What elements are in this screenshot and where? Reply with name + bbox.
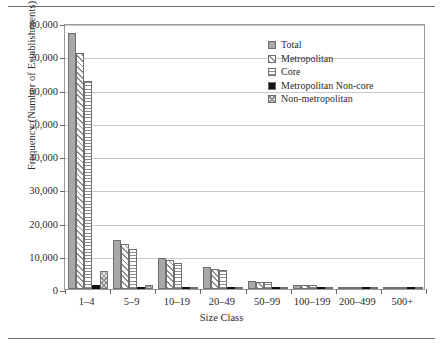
bar: [272, 287, 280, 289]
y-tick-label: 60,000: [0, 85, 58, 96]
bar: [317, 287, 325, 289]
bar: [84, 81, 92, 289]
bar: [113, 240, 121, 289]
bar: [76, 53, 84, 289]
x-tick-mark: [426, 289, 427, 294]
bar-group: [110, 25, 155, 289]
bar: [219, 270, 227, 289]
legend-swatch-icon: [268, 41, 276, 49]
bar: [166, 260, 174, 289]
bar: [68, 33, 76, 289]
bar: [399, 287, 407, 289]
bar: [309, 285, 317, 289]
y-tick-label: 10,000: [0, 251, 58, 262]
legend-item: Metropolitan Non-core: [268, 81, 373, 91]
chart-legend: TotalMetropolitanCoreMetropolitan Non-co…: [268, 40, 373, 104]
bar: [137, 287, 145, 289]
legend-swatch-icon: [268, 82, 276, 90]
y-tick-label: 0: [0, 285, 58, 296]
legend-swatch-icon: [268, 55, 276, 63]
bar: [338, 287, 346, 289]
x-tick-mark: [200, 289, 201, 294]
bar: [256, 282, 264, 289]
y-axis-title: Frequency (Number of Establishments): [26, 0, 37, 201]
bar: [391, 287, 399, 289]
x-tick-mark: [246, 289, 247, 294]
bar: [362, 287, 370, 289]
legend-item: Metropolitan: [268, 54, 373, 64]
legend-label: Metropolitan Non-core: [281, 81, 373, 91]
legend-label: Core: [281, 67, 300, 77]
legend-label: Non-metropolitan: [281, 94, 353, 104]
bar-group: [381, 25, 426, 289]
bar: [346, 287, 354, 289]
y-tick-label: 70,000: [0, 52, 58, 63]
y-tick-label: 30,000: [0, 185, 58, 196]
legend-item: Total: [268, 40, 373, 50]
bar: [325, 287, 333, 289]
x-tick-mark: [336, 289, 337, 294]
legend-item: Core: [268, 67, 373, 77]
bar: [264, 282, 272, 289]
x-tick-mark: [155, 289, 156, 294]
top-divider-rule: [8, 6, 435, 7]
bar-group: [155, 25, 200, 289]
y-tick-label: 50,000: [0, 118, 58, 129]
y-tick-label: 40,000: [0, 152, 58, 163]
x-tick-label: 50–99: [254, 296, 280, 307]
x-tick-label: 100–199: [294, 296, 331, 307]
x-tick-label: 20–49: [209, 296, 235, 307]
x-tick-mark: [65, 289, 66, 294]
x-tick-label: 500+: [392, 296, 414, 307]
bar: [370, 287, 378, 289]
x-tick-mark: [291, 289, 292, 294]
bar: [293, 285, 301, 289]
legend-label: Total: [281, 40, 301, 50]
bar: [248, 281, 256, 289]
bar: [174, 263, 182, 289]
bar: [145, 285, 153, 289]
x-axis-title: Size Class: [0, 312, 443, 323]
legend-swatch-icon: [268, 95, 276, 103]
x-tick-label: 1–4: [79, 296, 95, 307]
legend-label: Metropolitan: [281, 54, 333, 64]
bar: [92, 285, 100, 289]
bar-group: [65, 25, 110, 289]
bar: [383, 287, 391, 289]
bar: [280, 287, 288, 289]
figure: Frequency (Number of Establishments) 010…: [0, 0, 443, 346]
bar: [211, 269, 219, 289]
bottom-divider-rule: [8, 338, 435, 339]
x-tick-label: 200–499: [339, 296, 376, 307]
bar-group: [200, 25, 245, 289]
bar: [182, 287, 190, 289]
bar: [354, 287, 362, 289]
bar: [203, 267, 211, 289]
bar: [415, 287, 423, 289]
legend-swatch-icon: [268, 68, 276, 76]
bar: [100, 271, 108, 289]
x-tick-label: 10–19: [164, 296, 190, 307]
x-tick-label: 5–9: [124, 296, 140, 307]
bar: [227, 287, 235, 289]
bar: [235, 287, 243, 289]
bar: [121, 244, 129, 289]
legend-item: Non-metropolitan: [268, 94, 373, 104]
x-tick-mark: [110, 289, 111, 294]
bar: [407, 287, 415, 289]
bar: [158, 258, 166, 289]
bar: [190, 287, 198, 289]
x-tick-mark: [381, 289, 382, 294]
y-tick-label: 80,000: [0, 19, 58, 30]
bar: [129, 249, 137, 289]
y-tick-label: 20,000: [0, 218, 58, 229]
bar: [301, 285, 309, 289]
